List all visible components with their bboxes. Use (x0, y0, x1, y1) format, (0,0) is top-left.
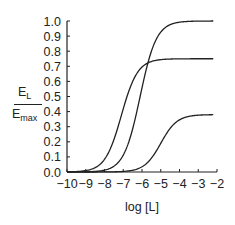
curve-series-3 (67, 115, 213, 172)
y-tick-label: 0.7 (44, 60, 61, 74)
x-axis-title: log [L] (125, 200, 159, 214)
x-tick-label: −10 (56, 177, 77, 191)
x-tick-label: −2 (210, 177, 224, 191)
y-tick-label: 0.9 (44, 30, 61, 44)
fraction-bar (14, 104, 42, 105)
y-tick-label: 0.2 (44, 135, 61, 149)
x-tick-label: −7 (116, 177, 130, 191)
y-tick-label: 1.0 (44, 15, 61, 29)
y-axis-title: EL Emax (12, 86, 56, 123)
x-tick-label: −6 (135, 177, 149, 191)
curve-series-1 (67, 21, 213, 172)
x-tick-label: −5 (154, 177, 168, 191)
y-axis-title-denominator: Emax (12, 108, 56, 123)
x-tick-label: −3 (191, 177, 205, 191)
y-tick-label: 0.8 (44, 45, 61, 59)
y-tick-label: 0.1 (44, 150, 61, 164)
x-tick-label: −8 (97, 177, 111, 191)
y-axis-title-numerator: EL (12, 86, 56, 101)
x-tick-label: −9 (79, 177, 93, 191)
x-tick-label: −4 (172, 177, 186, 191)
curves (67, 21, 213, 172)
